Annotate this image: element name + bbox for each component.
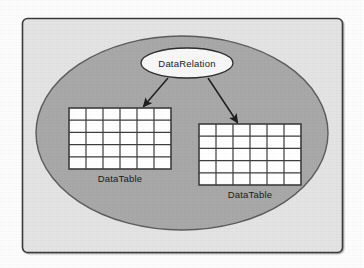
table-left (69, 108, 171, 169)
table-left-label: DataTable (98, 173, 143, 184)
table-right (199, 124, 301, 185)
table-right-label: DataTable (228, 189, 273, 200)
figure-page: DataRelation DataTable DataTable (0, 0, 364, 268)
dataset-relation-diagram: DataRelation DataTable DataTable (0, 0, 364, 268)
datarelation-label: DataRelation (158, 58, 215, 69)
